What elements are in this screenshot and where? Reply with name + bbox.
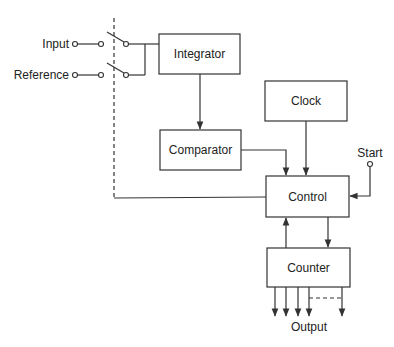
- reference-switch: [73, 44, 146, 78]
- clock-label: Clock: [291, 94, 322, 108]
- counter-label: Counter: [287, 261, 330, 275]
- start-label: Start: [357, 146, 383, 160]
- input-label: Input: [42, 37, 69, 51]
- comparator-label: Comparator: [169, 143, 232, 157]
- reference-label: Reference: [14, 68, 70, 82]
- integrator-label: Integrator: [174, 47, 225, 61]
- start-terminal: [368, 162, 373, 167]
- control-label: Control: [288, 190, 327, 204]
- input-switch: [73, 32, 160, 47]
- block-diagram: Integrator Comparator Clock Start Contro…: [0, 0, 394, 347]
- control-to-switch-line: [114, 197, 266, 198]
- output-label: Output: [291, 320, 328, 334]
- output-lines: [275, 287, 342, 316]
